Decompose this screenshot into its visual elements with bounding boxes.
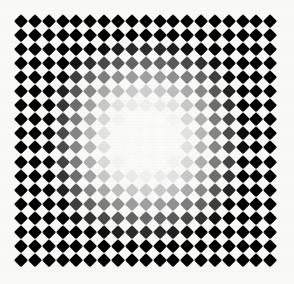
diamond-tile	[180, 42, 194, 56]
diamond-tile	[125, 239, 139, 253]
diamond-tile	[208, 42, 222, 56]
diamond-tile	[208, 99, 222, 113]
diamond-tile	[14, 225, 28, 239]
diamond-tile	[180, 56, 194, 70]
diamond-tile	[208, 141, 222, 155]
diamond-tile	[250, 197, 264, 211]
diamond-tile	[194, 56, 208, 70]
diamond-tile	[56, 70, 70, 84]
diamond-tile	[167, 84, 181, 98]
diamond-tile	[236, 28, 250, 42]
diamond-tile	[83, 84, 97, 98]
diamond-tile	[97, 141, 111, 155]
diamond-tile	[139, 113, 153, 127]
diamond-tile	[125, 84, 139, 98]
diamond-tile	[194, 155, 208, 169]
diamond-tile	[28, 42, 42, 56]
diamond-tile	[111, 141, 125, 155]
diamond-tile	[125, 169, 139, 183]
diamond-tile	[28, 155, 42, 169]
diamond-tile	[208, 225, 222, 239]
diamond-tile	[264, 239, 278, 253]
diamond-tile	[97, 211, 111, 225]
diamond-tile	[70, 56, 84, 70]
diamond-tile	[97, 183, 111, 197]
diamond-tile	[167, 169, 181, 183]
diamond-tile	[194, 183, 208, 197]
diamond-tile	[28, 211, 42, 225]
diamond-tile	[208, 169, 222, 183]
diamond-tile	[42, 84, 56, 98]
diamond-tile	[167, 99, 181, 113]
diamond-tile	[125, 56, 139, 70]
diamond-tile	[83, 169, 97, 183]
diamond-tile	[264, 99, 278, 113]
diamond-tile	[125, 99, 139, 113]
diamond-tile	[236, 155, 250, 169]
diamond-tile	[139, 239, 153, 253]
diamond-tile	[14, 14, 28, 28]
diamond-tile	[264, 183, 278, 197]
diamond-tile	[180, 211, 194, 225]
diamond-tile	[167, 239, 181, 253]
diamond-tile	[167, 56, 181, 70]
diamond-tile	[194, 70, 208, 84]
diamond-tile	[42, 225, 56, 239]
diamond-tile	[14, 28, 28, 42]
diamond-tile	[83, 141, 97, 155]
diamond-tile	[180, 197, 194, 211]
diamond-tile	[28, 14, 42, 28]
diamond-tile	[28, 113, 42, 127]
diamond-tile	[97, 127, 111, 141]
diamond-tile	[139, 14, 153, 28]
diamond-tile	[180, 99, 194, 113]
diamond-tile	[70, 155, 84, 169]
diamond-tile	[97, 28, 111, 42]
diamond-tile	[153, 169, 167, 183]
diamond-tile	[222, 239, 236, 253]
diamond-tile	[194, 14, 208, 28]
diamond-tile	[97, 56, 111, 70]
diamond-tile	[28, 127, 42, 141]
diamond-tile	[111, 169, 125, 183]
diamond-tile	[236, 169, 250, 183]
diamond-tile	[222, 42, 236, 56]
diamond-tile	[208, 253, 222, 267]
diamond-tile	[28, 169, 42, 183]
diamond-tile	[70, 14, 84, 28]
diamond-tile	[264, 28, 278, 42]
diamond-tile	[28, 141, 42, 155]
diamond-tile	[111, 99, 125, 113]
diamond-tile	[111, 113, 125, 127]
diamond-tile	[125, 183, 139, 197]
diamond-tile	[42, 113, 56, 127]
diamond-tile	[180, 28, 194, 42]
diamond-tile	[111, 183, 125, 197]
diamond-tile	[208, 56, 222, 70]
diamond-tile	[111, 211, 125, 225]
diamond-tile	[208, 197, 222, 211]
diamond-tile	[139, 169, 153, 183]
diamond-tile	[180, 84, 194, 98]
diamond-tile	[194, 113, 208, 127]
diamond-tile	[42, 141, 56, 155]
diamond-tile	[97, 225, 111, 239]
diamond-tile	[222, 183, 236, 197]
diamond-tile	[180, 225, 194, 239]
diamond-tile	[97, 113, 111, 127]
diamond-grid	[0, 0, 294, 284]
diamond-tile	[222, 253, 236, 267]
diamond-tile	[14, 239, 28, 253]
diamond-tile	[125, 211, 139, 225]
diamond-tile	[42, 70, 56, 84]
diamond-tile	[56, 197, 70, 211]
diamond-tile	[125, 253, 139, 267]
diamond-tile	[83, 197, 97, 211]
diamond-tile	[14, 169, 28, 183]
diamond-tile	[194, 141, 208, 155]
diamond-tile	[56, 169, 70, 183]
diamond-tile	[208, 14, 222, 28]
diamond-tile	[153, 42, 167, 56]
diamond-tile	[42, 211, 56, 225]
diamond-tile	[70, 225, 84, 239]
